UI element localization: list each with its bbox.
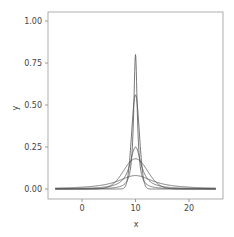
x-axis: 01020 <box>79 199 194 213</box>
series-line <box>55 159 216 189</box>
series-line <box>55 95 216 189</box>
series-lines <box>55 55 216 189</box>
y-axis: 0.000.250.500.751.00 <box>24 17 48 194</box>
plot-area <box>48 12 223 199</box>
series-line <box>55 55 216 189</box>
y-tick-label: 0.25 <box>24 143 42 152</box>
y-tick-label: 1.00 <box>24 17 42 26</box>
series-line <box>55 147 216 189</box>
series-line <box>55 176 216 189</box>
y-tick-label: 0.75 <box>24 59 42 68</box>
line-chart: 0.000.250.500.751.00 01020 x y <box>0 0 234 237</box>
y-tick-label: 0.00 <box>24 185 42 194</box>
x-tick-label: 20 <box>184 204 194 213</box>
x-tick-label: 10 <box>130 204 140 213</box>
x-axis-label: x <box>134 220 139 229</box>
x-tick-label: 0 <box>79 204 84 213</box>
y-axis-label: y <box>11 105 20 110</box>
y-tick-label: 0.50 <box>24 101 42 110</box>
